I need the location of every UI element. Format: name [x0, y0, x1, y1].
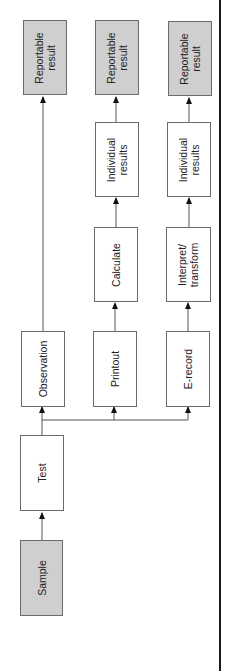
node-reportable-result-3: Reportable result	[168, 21, 212, 96]
node-label: Reportable result	[105, 32, 129, 83]
node-label: Calculate	[110, 243, 122, 287]
node-calculate: Calculate	[94, 227, 138, 302]
node-label: Interpret/ transform	[177, 242, 201, 286]
node-label: E-record	[182, 349, 194, 389]
node-label: Printout	[109, 351, 121, 387]
node-test: Test	[20, 435, 64, 511]
frame-border-line	[219, 0, 221, 671]
node-individual-results-1: Individual results	[95, 122, 139, 197]
node-printout: Printout	[93, 331, 137, 407]
node-reportable-result-2: Reportable result	[95, 20, 139, 95]
node-label: Observation	[37, 341, 49, 398]
node-label: Test	[36, 463, 48, 482]
node-label: Individual results	[105, 137, 129, 181]
node-e-record: E-record	[166, 331, 210, 407]
node-reportable-result-1: Reportable result	[23, 20, 67, 95]
node-interpret-transform: Interpret/ transform	[166, 227, 211, 302]
node-label: Sample	[35, 560, 47, 596]
node-observation: Observation	[21, 331, 65, 407]
node-label: Reportable result	[178, 33, 202, 84]
node-individual-results-2: Individual results	[167, 122, 211, 197]
node-sample: Sample	[20, 540, 63, 616]
node-label: Individual results	[177, 137, 201, 181]
node-label: Reportable result	[33, 32, 57, 83]
